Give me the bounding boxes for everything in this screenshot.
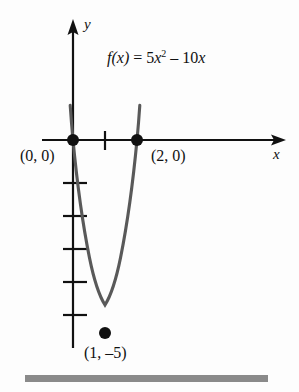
function-equals: = 5 <box>129 49 154 66</box>
vertex-point-label: (1, –5) <box>84 345 127 361</box>
function-x-second: x <box>198 49 205 66</box>
root-two-point-label: (2, 0) <box>151 148 186 164</box>
bottom-rule <box>25 375 268 382</box>
function-minus-term: – 10 <box>166 49 198 66</box>
function-arg: (x) <box>111 49 129 66</box>
origin-point-label: (0, 0) <box>20 148 55 164</box>
y-ticks <box>63 183 87 315</box>
point-origin <box>67 134 79 146</box>
x-axis-label: x <box>273 147 280 162</box>
point-vertex <box>99 327 111 339</box>
y-axis-label: y <box>84 17 91 32</box>
point-root-two <box>131 134 143 146</box>
function-equation-label: f(x) = 5x2 – 10x <box>107 50 205 66</box>
parabola-figure: f(x) = 5x2 – 10x (0, 0) (2, 0) (1, –5) x… <box>0 0 299 392</box>
